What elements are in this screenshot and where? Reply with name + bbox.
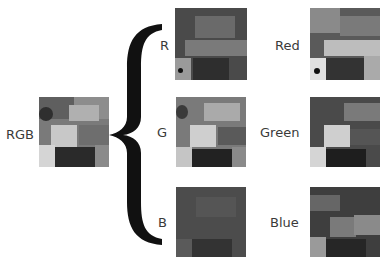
rgb-label: RGB bbox=[6, 127, 34, 143]
channel-b-label: B bbox=[158, 215, 167, 231]
channel-green-label: Green bbox=[260, 125, 299, 141]
curly-brace-icon bbox=[105, 22, 165, 247]
channel-blue-label: Blue bbox=[270, 215, 299, 231]
channel-g-image bbox=[176, 97, 246, 167]
channel-red-label: Red bbox=[275, 38, 300, 54]
channel-green-image bbox=[310, 97, 380, 167]
channel-r-image bbox=[175, 8, 247, 80]
channel-red-image bbox=[310, 8, 380, 80]
channel-g-label: G bbox=[157, 125, 167, 141]
channel-blue-image bbox=[310, 187, 380, 257]
channel-r-label: R bbox=[160, 38, 169, 54]
channel-b-image bbox=[176, 187, 246, 257]
rgb-image bbox=[39, 97, 109, 167]
